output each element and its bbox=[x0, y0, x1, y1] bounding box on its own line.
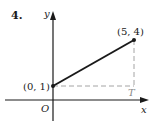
x-axis-label: x bbox=[141, 104, 147, 115]
y-axis-arrow-icon bbox=[50, 11, 56, 20]
point-end-label: (5, 4) bbox=[117, 26, 144, 37]
point-end bbox=[132, 38, 136, 42]
x-axis-arrow-icon bbox=[140, 97, 149, 103]
origin-label: O bbox=[41, 103, 49, 114]
point-start-label: (0, 1) bbox=[23, 81, 50, 92]
line-segment bbox=[53, 40, 134, 86]
coordinate-diagram: 4. y x O (0, 1) (5, 4) T bbox=[0, 0, 154, 121]
problem-number: 4. bbox=[11, 9, 22, 22]
y-axis bbox=[50, 11, 56, 121]
point-start bbox=[51, 84, 55, 88]
y-axis-label: y bbox=[43, 8, 50, 19]
corner-label: T bbox=[128, 87, 136, 98]
